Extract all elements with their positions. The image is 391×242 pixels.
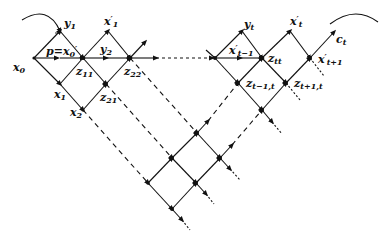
label-z22: z22 xyxy=(124,66,141,78)
label-x1-prime: x′1 xyxy=(104,14,118,28)
label-y2: y2 xyxy=(100,44,112,56)
label-ztt: ztt xyxy=(268,53,282,65)
label-x0: x0 xyxy=(13,62,25,74)
label-p-eq-x0: p=x0′ xyxy=(46,44,77,58)
output-arc-ct xyxy=(330,14,378,24)
dashed-up-diagonals xyxy=(208,83,262,145)
label-x-t-plus-1-prime: x′t+1 xyxy=(318,52,343,66)
label-z21: z21 xyxy=(100,92,117,104)
label-yt: yt xyxy=(244,19,254,31)
label-ct: ct xyxy=(336,34,346,46)
diagram-canvas xyxy=(0,0,391,242)
label-z-t-minus-1-t: zt−1,t xyxy=(246,78,275,90)
label-x1: x1 xyxy=(54,89,66,101)
label-xt-prime: x′t xyxy=(290,14,302,28)
label-z11: z11 xyxy=(76,66,93,78)
label-x2: x2 xyxy=(70,107,82,119)
input-arc-left xyxy=(22,14,60,31)
label-z-t-plus-1-t: zt+1,t xyxy=(294,78,323,90)
label-x-t-minus-1-prime: x′t−1 xyxy=(229,43,254,57)
bottom-lattice xyxy=(148,110,272,220)
label-y1: y1 xyxy=(64,18,76,30)
dashed-diagonals xyxy=(83,58,324,230)
right-lattice xyxy=(206,31,334,110)
